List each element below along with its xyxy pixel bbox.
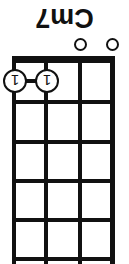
string-1 (110, 56, 115, 264)
finger-number-label: 1 (43, 74, 51, 89)
finger-dot-string-4[interactable]: 1 (3, 69, 27, 93)
fret-line-0 (12, 257, 115, 261)
fret-line-4 (12, 100, 115, 104)
chord-diagram-card: 1 1 Cm7 (0, 0, 129, 264)
fret-line-1 (12, 218, 115, 222)
finger-dot-string-3[interactable]: 1 (35, 69, 59, 93)
string-2 (78, 56, 82, 264)
fretboard: 1 1 (0, 0, 129, 264)
finger-number-label: 1 (11, 74, 19, 89)
open-string-marker-2 (74, 38, 87, 51)
fret-line-2 (12, 179, 115, 183)
nut-bar (12, 56, 115, 63)
fret-line-3 (12, 140, 115, 144)
open-string-marker-1 (106, 38, 119, 51)
chord-name-label: Cm7 (0, 2, 129, 33)
